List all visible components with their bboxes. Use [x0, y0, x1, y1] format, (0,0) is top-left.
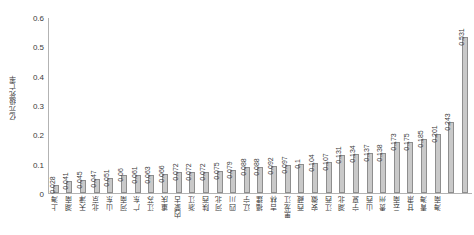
- x-axis-label-slot: 福建: [253, 196, 267, 235]
- x-axis-label: 青海: [420, 196, 427, 211]
- x-axis-label-slot: 广东: [130, 196, 144, 235]
- bar-value-label: 0.137: [363, 144, 370, 162]
- y-axis-tick: 0.5: [33, 43, 44, 52]
- bar-value-label: 0.138: [376, 144, 383, 162]
- bar-value-label: 0.047: [90, 170, 97, 188]
- x-axis-label-slot: 内蒙古: [171, 196, 185, 235]
- bar: 0.138: [380, 153, 386, 193]
- x-axis-label: 江苏: [147, 196, 154, 211]
- bar-slot: 0.063: [144, 18, 158, 193]
- x-axis-label-slot: 山西: [362, 196, 376, 235]
- bar-slot: 0.138: [376, 18, 390, 193]
- bar-value-label: 0.097: [281, 156, 288, 174]
- bar: 0.201: [435, 134, 441, 193]
- bar: 0.088: [244, 167, 250, 193]
- bar-slot: 0.047: [90, 18, 104, 193]
- bar-value-label: 0.243: [444, 113, 451, 131]
- bar-slot: 0.088: [240, 18, 254, 193]
- x-axis-label: 湖南: [65, 196, 72, 211]
- x-axis-label-slot: 湖北: [335, 196, 349, 235]
- bar: 0.051: [107, 178, 113, 193]
- bar-slot: 0.243: [445, 18, 459, 193]
- bar-value-label: 0.134: [349, 145, 356, 163]
- bar-chart: 亿元级死亡率 00.10.20.30.40.50.6 0.0280.0410.0…: [0, 0, 474, 235]
- x-axis-label-slot: 重庆: [157, 196, 171, 235]
- bar: 0.072: [176, 172, 182, 193]
- x-axis-label-slot: 陕西: [198, 196, 212, 235]
- x-axis-label: 重庆: [161, 196, 168, 211]
- x-axis-label: 河北: [215, 196, 222, 211]
- bar-value-label: 0.045: [76, 171, 83, 189]
- x-axis-label-slot: [444, 196, 458, 235]
- x-axis-label-slot: [458, 196, 472, 235]
- bar-slot: 0.531: [458, 18, 472, 193]
- bar: 0.045: [80, 180, 86, 193]
- bar-slot: 0.1: [295, 18, 309, 193]
- bar-slot: 0.173: [390, 18, 404, 193]
- bar-value-label: 0.051: [103, 169, 110, 187]
- bar-slot: 0.175: [404, 18, 418, 193]
- x-axis-label: 广东: [133, 196, 140, 211]
- y-axis-tick: 0.3: [33, 102, 44, 111]
- x-axis-label: 安徽: [311, 196, 318, 211]
- bar: 0.104: [312, 163, 318, 194]
- x-axis-label: 内蒙古: [174, 196, 181, 218]
- bar: 0.243: [448, 122, 454, 193]
- bar-slot: 0.072: [199, 18, 213, 193]
- bar-value-label: 0.104: [308, 154, 315, 172]
- x-axis-label: 四川: [229, 196, 236, 211]
- x-axis-label: 云南: [393, 196, 400, 211]
- bar-slot: 0.092: [267, 18, 281, 193]
- plot-area: 0.0280.0410.0450.0470.0510.060.0610.0630…: [48, 18, 472, 194]
- bars-layer: 0.0280.0410.0450.0470.0510.060.0610.0630…: [49, 18, 472, 193]
- bar-value-label: 0.088: [240, 158, 247, 176]
- bar-slot: 0.137: [363, 18, 377, 193]
- bar-value-label: 0.041: [62, 172, 69, 190]
- x-axis-label: 海南: [434, 196, 441, 211]
- bar-value-label: 0.175: [403, 133, 410, 151]
- bar-value-label: 0.072: [185, 163, 192, 181]
- x-axis-label: 福建: [256, 196, 263, 211]
- x-axis-label: 宁夏: [352, 196, 359, 211]
- x-axis-label: 辽宁: [243, 196, 250, 211]
- bar-slot: 0.131: [335, 18, 349, 193]
- bar-value-label: 0.185: [417, 130, 424, 148]
- bar: 0.041: [66, 181, 72, 193]
- x-axis-label: 北京: [92, 196, 99, 211]
- bar-slot: 0.134: [349, 18, 363, 193]
- bar-value-label: 0.072: [199, 163, 206, 181]
- x-axis-label: 西藏: [297, 196, 304, 211]
- x-axis-label-slot: 上海: [48, 196, 62, 235]
- bar: 0.028: [53, 185, 59, 193]
- bar-slot: 0.051: [104, 18, 118, 193]
- x-axis-label: 山西: [366, 196, 373, 211]
- x-axis-label: 贵州: [379, 196, 386, 211]
- bar: 0.173: [394, 142, 400, 193]
- bar-value-label: 0.173: [390, 134, 397, 152]
- bar-value-label: 0.072: [172, 163, 179, 181]
- bar: 0.061: [135, 175, 141, 193]
- bar-value-label: 0.201: [431, 125, 438, 143]
- x-axis-label-slot: 吉林: [267, 196, 281, 235]
- bar-slot: 0.066: [158, 18, 172, 193]
- x-axis-label-slot: 青海: [417, 196, 431, 235]
- x-axis-label-slot: 贵州: [376, 196, 390, 235]
- x-axis-category-labels: 上海湖南天津北京山东河南广东江苏重庆内蒙古浙江陕西河北四川辽宁福建吉林黑龙江西藏…: [48, 196, 472, 235]
- bar-slot: 0.041: [63, 18, 77, 193]
- x-axis-label: 山东: [106, 196, 113, 211]
- bar: 0.531: [462, 37, 468, 193]
- bar-slot: 0.185: [417, 18, 431, 193]
- bar: 0.066: [162, 174, 168, 193]
- x-axis-label: 浙江: [188, 196, 195, 211]
- bar-slot: 0.028: [49, 18, 63, 193]
- bar-slot: 0.06: [117, 18, 131, 193]
- bar: 0.097: [285, 165, 291, 193]
- bar-value-label: 0.066: [158, 165, 165, 183]
- x-axis-label-slot: 河北: [212, 196, 226, 235]
- bar-slot: 0.104: [308, 18, 322, 193]
- bar: 0.063: [148, 175, 154, 193]
- x-axis-label: 甘肃: [407, 196, 414, 211]
- bar-slot: 0.079: [226, 18, 240, 193]
- y-axis-tick: 0.2: [33, 131, 44, 140]
- bar: 0.175: [407, 142, 413, 193]
